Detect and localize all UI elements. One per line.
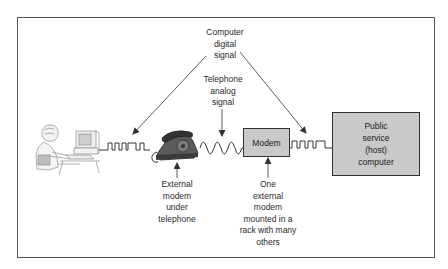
digital-signal-line-3: signal (190, 50, 260, 62)
rack-modem-line-6: others (228, 237, 308, 249)
digital-signal-label: Computer digital signal (190, 27, 260, 62)
rack-modem-line-5: rack with many (228, 225, 308, 237)
digital-signal-line-2: digital (190, 39, 260, 51)
telephone-icon (152, 131, 198, 162)
digital-signal-wave-2 (290, 141, 333, 148)
analog-signal-label: Telephone analog signal (190, 74, 256, 109)
host-label-line-3: (host) (358, 144, 393, 156)
modem-label: Modem (252, 137, 280, 149)
host-computer-label: Public service (host) computer (358, 120, 393, 168)
host-label-line-2: service (358, 132, 393, 144)
digital-signal-line-1: Computer (190, 27, 260, 39)
host-label-line-1: Public (358, 120, 393, 132)
analog-signal-line-3: signal (190, 97, 256, 109)
modem-box: Modem (243, 128, 290, 157)
digital-signal-wave-1 (99, 143, 150, 150)
host-computer-box: Public service (host) computer (332, 112, 420, 176)
external-modem-line-2: modem (145, 191, 209, 203)
external-modem-label: External modem under telephone (145, 179, 209, 225)
external-modem-line-1: External (145, 179, 209, 191)
rack-modem-line-4: mounted in a (228, 214, 308, 226)
user-at-computer-icon (36, 125, 100, 175)
external-modem-line-3: under (145, 202, 209, 214)
rack-modem-line-2: external (228, 191, 308, 203)
rack-modem-label: One external modem mounted in a rack wit… (228, 179, 308, 248)
analog-signal-line-1: Telephone (190, 74, 256, 86)
rack-modem-line-1: One (228, 179, 308, 191)
analog-signal-line-2: analog (190, 86, 256, 98)
external-modem-line-4: telephone (145, 214, 209, 226)
rack-modem-line-3: modem (228, 202, 308, 214)
host-label-line-4: computer (358, 156, 393, 168)
analog-signal-wave (200, 142, 242, 154)
